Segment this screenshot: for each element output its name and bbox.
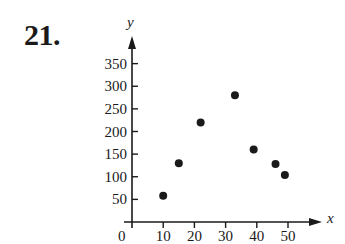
y-tick-label: 300	[105, 78, 128, 94]
data-point	[281, 171, 289, 179]
data-point	[250, 146, 258, 154]
y-axis-arrow-icon	[128, 36, 136, 49]
y-tick-label: 250	[105, 101, 128, 117]
y-tick-label: 350	[105, 56, 128, 72]
y-tick-label: 100	[105, 169, 128, 185]
data-points	[159, 91, 289, 199]
x-tick-label: 20	[187, 228, 202, 244]
origin-label: 0	[118, 228, 126, 244]
y-tick-label: 200	[105, 124, 128, 140]
axes: xy	[124, 14, 334, 228]
x-tick-label: 40	[249, 228, 264, 244]
scatter-chart: xy 0102030405050100150200250300350	[0, 0, 345, 244]
data-point	[231, 91, 239, 99]
data-point	[159, 192, 167, 200]
x-axis-arrow-icon	[309, 218, 322, 226]
y-tick-label: 50	[112, 191, 127, 207]
x-tick-label: 10	[156, 228, 171, 244]
y-tick-label: 150	[105, 146, 128, 162]
x-tick-label: 30	[218, 228, 233, 244]
data-point	[175, 159, 183, 167]
y-axis-label: y	[125, 14, 134, 30]
data-point	[197, 118, 205, 126]
data-point	[272, 160, 280, 168]
x-axis-label: x	[326, 210, 334, 226]
ticks: 0102030405050100150200250300350	[105, 56, 296, 244]
x-tick-label: 50	[281, 228, 296, 244]
